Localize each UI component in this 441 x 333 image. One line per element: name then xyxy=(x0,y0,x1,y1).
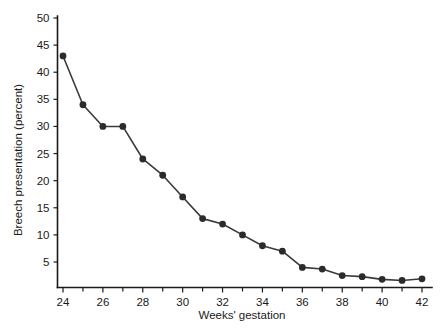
y-tick-label: 50 xyxy=(37,12,50,24)
x-axis-tick-labels: 24262830323436384042 xyxy=(57,296,429,308)
y-tick-label: 10 xyxy=(37,229,50,241)
x-tick-label: 32 xyxy=(216,296,229,308)
x-tick-label: 38 xyxy=(336,296,349,308)
data-point xyxy=(319,266,326,273)
y-tick-label: 45 xyxy=(37,39,50,51)
data-point xyxy=(399,277,406,284)
y-tick-label: 5 xyxy=(43,256,49,268)
x-tick-label: 30 xyxy=(176,296,189,308)
x-tick-label: 24 xyxy=(57,296,70,308)
x-tick-label: 36 xyxy=(296,296,309,308)
y-tick-label: 25 xyxy=(37,148,50,160)
data-point xyxy=(239,231,246,238)
breech-presentation-line-chart: Breech presentation (percent) Weeks' ges… xyxy=(0,0,441,333)
y-axis-title: Breech presentation (percent) xyxy=(12,84,24,236)
data-point xyxy=(159,172,166,179)
data-point xyxy=(359,273,366,280)
data-point xyxy=(299,264,306,271)
data-point xyxy=(80,101,87,108)
y-tick-label: 15 xyxy=(37,202,50,214)
x-tick-label: 28 xyxy=(136,296,149,308)
x-tick-label: 26 xyxy=(96,296,109,308)
x-axis-title: Weeks' gestation xyxy=(198,309,285,321)
y-tick-label: 40 xyxy=(37,66,50,78)
y-tick-label: 20 xyxy=(37,175,50,187)
data-point xyxy=(139,156,146,163)
y-tick-label: 30 xyxy=(37,120,50,132)
data-point-group xyxy=(60,53,426,284)
chart-figure: Breech presentation (percent) Weeks' ges… xyxy=(0,0,441,333)
data-point xyxy=(219,221,226,228)
x-tick-label: 42 xyxy=(416,296,429,308)
data-line-series xyxy=(63,56,422,280)
data-point xyxy=(60,53,67,60)
data-point xyxy=(339,272,346,279)
x-tick-label: 34 xyxy=(256,296,269,308)
data-point xyxy=(259,242,266,249)
data-point xyxy=(99,123,106,130)
x-tick-label: 40 xyxy=(376,296,389,308)
data-point xyxy=(279,248,286,255)
data-point xyxy=(179,194,186,201)
data-point xyxy=(119,123,126,130)
data-point xyxy=(379,276,386,283)
data-point xyxy=(419,275,426,282)
y-tick-label: 35 xyxy=(37,93,50,105)
y-axis-tick-labels: 5101520253035404550 xyxy=(37,12,50,268)
data-point xyxy=(199,215,206,222)
